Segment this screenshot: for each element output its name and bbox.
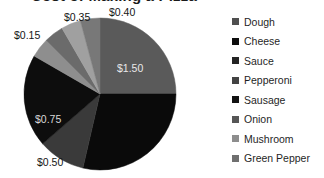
legend-item-label: Dough: [244, 17, 275, 28]
legend-item-label: Green Pepper: [244, 153, 310, 164]
legend-swatch-icon: [232, 77, 239, 84]
legend-swatch-icon: [232, 18, 239, 25]
legend-swatch-icon: [232, 155, 239, 162]
pie-svg: [18, 16, 210, 176]
legend-swatch-icon: [232, 38, 239, 45]
chart-title: Cost of Making a Pizza: [0, 0, 228, 4]
legend-item-pepperoni[interactable]: Pepperoni: [232, 71, 324, 91]
legend-swatch-icon: [232, 57, 239, 64]
legend-item-label: Mushroom: [244, 134, 294, 145]
pie-slice-dough[interactable]: [100, 18, 176, 94]
data-label-cheese: $0.50: [37, 157, 63, 168]
legend-item-mushroom[interactable]: Mushroom: [232, 129, 324, 149]
legend-item-dough[interactable]: Dough: [232, 12, 324, 32]
legend-item-label: Onion: [244, 114, 272, 125]
legend-item-cheese[interactable]: Cheese: [232, 32, 324, 52]
chart-legend: DoughCheeseSaucePepperoniSausageOnionMus…: [232, 12, 324, 168]
legend-item-label: Pepperoni: [244, 75, 292, 86]
pie-chart-figure: Cost of Making a Pizza $0.35 $0.40 $0.15…: [0, 0, 324, 178]
legend-item-label: Sauce: [244, 56, 274, 67]
data-label-sausage: $0.35: [64, 12, 90, 23]
data-label-pepperoni: $0.15: [14, 30, 40, 41]
legend-swatch-icon: [232, 96, 239, 103]
legend-item-onion[interactable]: Onion: [232, 110, 324, 130]
legend-swatch-icon: [232, 116, 239, 123]
pie-plot-area: $0.35 $0.40 $0.15 $1.50 $0.75 $0.50: [18, 16, 210, 176]
data-label-sauce: $0.75: [35, 114, 61, 125]
legend-swatch-icon: [232, 135, 239, 142]
legend-item-sauce[interactable]: Sauce: [232, 51, 324, 71]
legend-item-green-pepper[interactable]: Green Pepper: [232, 149, 324, 169]
legend-item-sausage[interactable]: Sausage: [232, 90, 324, 110]
legend-item-label: Cheese: [244, 36, 280, 47]
legend-item-label: Sausage: [244, 95, 285, 106]
data-label-dough: $1.50: [117, 63, 143, 74]
data-label-onion: $0.40: [109, 7, 135, 18]
pie-slice-group: [24, 18, 176, 170]
